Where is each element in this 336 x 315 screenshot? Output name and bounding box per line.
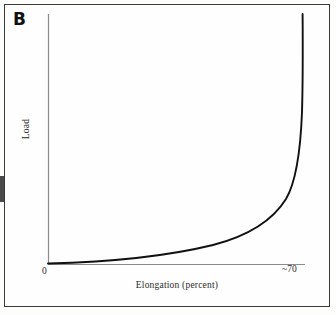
load-elongation-curve	[48, 14, 303, 264]
x-axis-label: Elongation (percent)	[48, 280, 306, 290]
x-tick-label-origin: 0	[42, 266, 47, 276]
x-tick-label-max: ~70	[282, 264, 297, 274]
y-axis-label: Load	[21, 99, 31, 159]
figure-panel-b: B Load Elongation (percent) 0 ~70	[0, 0, 336, 315]
